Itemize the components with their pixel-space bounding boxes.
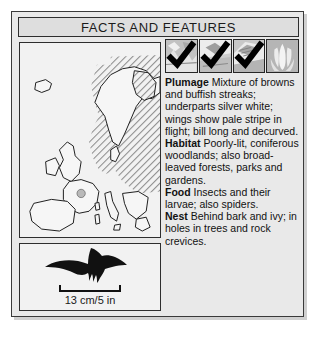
check-icon	[200, 40, 231, 72]
fact-food: Food Insects and their larvae; also spid…	[165, 186, 301, 210]
habitat-icon-row	[165, 39, 299, 73]
fact-plumage: Plumage Mixture of browns and buffish st…	[165, 76, 301, 137]
fact-nest: Nest Behind bark and ivy; in holes in tr…	[165, 210, 301, 247]
fact-term-food: Food	[165, 186, 191, 198]
europe-map-image	[20, 43, 160, 237]
fact-term-plumage: Plumage	[165, 76, 209, 88]
check-icon	[234, 40, 265, 72]
scale-bracket-icon	[58, 284, 122, 293]
bird-flight-silhouette-icon	[42, 246, 138, 284]
facts-text-block: Plumage Mixture of browns and buffish st…	[165, 76, 301, 247]
distribution-map-panel	[19, 42, 161, 238]
habitat-icon-1[interactable]	[165, 39, 198, 73]
habitat-icon-2[interactable]	[199, 39, 232, 73]
habitat-icon-4[interactable]	[266, 39, 299, 73]
fact-term-habitat: Habitat	[165, 137, 201, 149]
tulip-icon	[267, 40, 298, 72]
fact-habitat: Habitat Poorly-lit, coniferous woodlands…	[165, 137, 301, 186]
size-silhouette-panel: 13 cm/5 in	[19, 243, 161, 311]
check-icon	[166, 40, 197, 72]
card-header: FACTS AND FEATURES	[18, 17, 299, 37]
habitat-icon-3[interactable]	[233, 39, 266, 73]
facts-and-features-card: FACTS AND FEATURES	[11, 11, 304, 317]
scale-label: 13 cm/5 in	[20, 294, 160, 306]
fact-term-nest: Nest	[165, 210, 188, 222]
page-title: FACTS AND FEATURES	[81, 20, 236, 35]
